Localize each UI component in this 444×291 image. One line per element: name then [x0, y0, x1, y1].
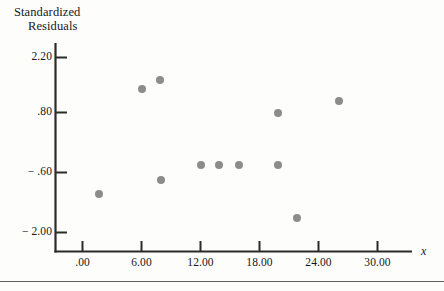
- data-point: [235, 161, 243, 169]
- data-point: [274, 161, 282, 169]
- y-tick-label-neg-2.00: − 2.00: [0, 225, 52, 237]
- data-point: [293, 214, 301, 222]
- x-tick-label-12.00: 12.00: [170, 256, 231, 268]
- y-tick-label-2.20: 2.20: [0, 50, 52, 62]
- data-point: [274, 109, 282, 117]
- data-point: [197, 161, 205, 169]
- y-tick-label-0.80: .80: [0, 105, 52, 117]
- x-tick-label-6.00: 6.00: [111, 256, 172, 268]
- plot-axes: [0, 0, 444, 291]
- data-point: [335, 97, 343, 105]
- data-point: [138, 85, 146, 93]
- y-tick-label-neg-0.60: − .60: [0, 165, 52, 177]
- x-axis-variable-label: x: [421, 244, 426, 259]
- x-tick-label-30.00: 30.00: [347, 256, 408, 268]
- page-footer-rule: [0, 281, 444, 282]
- x-tick-label-24.00: 24.00: [288, 256, 349, 268]
- scatter-plot-figure: Standardized Residuals 2.20 .80 − .60 − …: [0, 0, 444, 291]
- x-tick-label-18.00: 18.00: [229, 256, 290, 268]
- x-tick-label-0.00: .00: [52, 256, 113, 268]
- data-point: [215, 161, 223, 169]
